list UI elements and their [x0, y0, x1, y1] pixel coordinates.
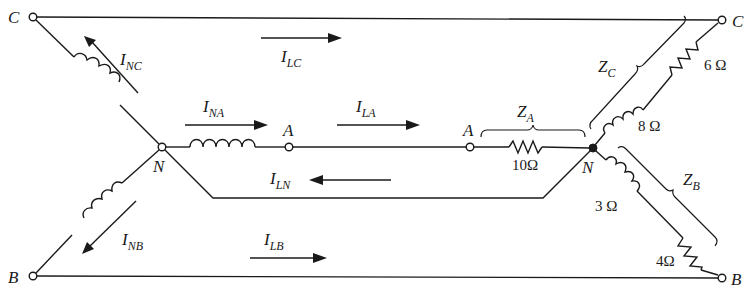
- label-i-na: INA: [202, 97, 225, 120]
- label-z-c: ZC: [598, 57, 616, 80]
- label-z-c-inductor: 8 Ω: [638, 118, 660, 134]
- label-c-left: C: [8, 8, 20, 27]
- arrowhead-i-ln: [309, 175, 323, 185]
- terminal-c-right: [718, 16, 726, 24]
- label-i-nc: INC: [119, 50, 143, 73]
- label-z-b-inductor: 3 Ω: [595, 198, 617, 214]
- three-phase-circuit-diagram: C C B B A A N N INC INA INB ILC ILA ILN …: [0, 0, 755, 300]
- label-c-right: C: [732, 12, 744, 31]
- load-phase-a-resistor: [474, 141, 590, 153]
- source-phase-a-inductor: [166, 140, 285, 148]
- line-c-wire: [37, 17, 718, 20]
- arrowhead-i-la: [406, 120, 420, 130]
- label-z-b: ZB: [683, 170, 700, 193]
- terminal-c-left: [29, 13, 37, 21]
- label-i-la: ILA: [355, 97, 376, 120]
- terminal-n-source: [158, 143, 166, 151]
- arrowhead-i-na: [254, 120, 268, 130]
- terminal-b-left: [29, 272, 37, 280]
- terminal-n-load: [589, 144, 597, 152]
- label-n-load: N: [581, 158, 595, 177]
- label-z-b-resistor: 4Ω: [656, 253, 675, 269]
- source-phase-c-inductor: [36, 20, 159, 144]
- label-i-lb: ILB: [263, 230, 284, 253]
- label-i-lc: ILC: [280, 47, 302, 70]
- brace-z-a: [481, 125, 585, 137]
- terminal-a-source: [285, 143, 293, 151]
- label-a-load: A: [462, 121, 474, 140]
- label-n-source: N: [152, 157, 166, 176]
- terminal-b-right: [718, 274, 726, 282]
- arrowhead-i-lb: [313, 253, 327, 263]
- label-z-c-resistor: 6 Ω: [704, 57, 726, 73]
- brace-z-b: [618, 147, 717, 246]
- label-z-a-resistor: 10Ω: [512, 157, 538, 173]
- label-z-a: ZA: [517, 102, 534, 125]
- source-phase-b-inductor: [36, 150, 159, 273]
- terminal-a-load: [466, 143, 474, 151]
- label-b-right: B: [731, 270, 742, 289]
- label-i-nb: INB: [121, 230, 144, 253]
- label-i-ln: ILN: [269, 169, 291, 192]
- label-a-source: A: [282, 121, 294, 140]
- line-b-wire: [37, 276, 718, 278]
- arrowhead-i-lc: [328, 33, 342, 43]
- label-b-left: B: [8, 268, 19, 287]
